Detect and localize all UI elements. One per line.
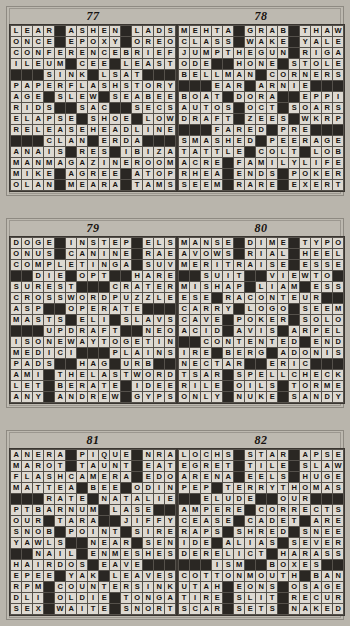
crossword-letter-cell: S xyxy=(322,282,332,292)
crossword-letter-cell: E xyxy=(44,169,54,179)
crossword-letter-cell: E xyxy=(154,92,164,102)
crossword-letter-cell: T xyxy=(267,593,277,603)
crossword-letter-cell: A xyxy=(77,571,87,581)
crossword-letter-cell: A xyxy=(22,81,32,91)
crossword-letter-cell: R xyxy=(322,180,332,190)
crossword-letter-cell: A xyxy=(179,326,189,336)
crossword-block-cell xyxy=(132,538,142,548)
crossword-block-cell xyxy=(55,37,65,47)
crossword-letter-cell: S xyxy=(165,180,175,190)
crossword-block-cell xyxy=(278,381,288,391)
crossword-letter-cell: O xyxy=(143,370,153,380)
crossword-letter-cell: X xyxy=(289,560,299,570)
crossword-letter-cell: L xyxy=(77,81,87,91)
crossword-block-cell xyxy=(55,249,65,259)
crossword-letter-cell: K xyxy=(33,169,43,179)
crossword-letter-cell: E xyxy=(201,472,211,482)
crossword-letter-cell: S xyxy=(77,560,87,570)
crossword-letter-cell: C xyxy=(245,516,255,526)
crossword-block-cell xyxy=(132,249,142,259)
crossword-letter-cell: E xyxy=(165,249,175,259)
crossword-letter-cell: F xyxy=(143,516,153,526)
crossword-letter-cell: Y xyxy=(143,392,153,402)
crossword-letter-cell: E xyxy=(132,304,142,314)
crossword-letter-cell: R xyxy=(66,48,76,58)
crossword-block-cell xyxy=(256,359,266,369)
crossword-letter-cell: A xyxy=(333,48,343,58)
crossword-letter-cell: S xyxy=(55,293,65,303)
crossword-letter-cell: P xyxy=(212,48,222,58)
crossword-letter-cell: O xyxy=(300,348,310,358)
crossword-letter-cell: E xyxy=(300,505,310,515)
crossword-letter-cell: E xyxy=(333,582,343,592)
crossword-letter-cell: Y xyxy=(11,538,21,548)
crossword-letter-cell: A xyxy=(11,392,21,402)
crossword-letter-cell: E xyxy=(66,114,76,124)
crossword-letter-cell: S xyxy=(99,147,109,157)
crossword-letter-cell: R xyxy=(99,304,109,314)
crossword-letter-cell: E xyxy=(33,92,43,102)
crossword-letter-cell: E xyxy=(99,392,109,402)
crossword-letter-cell: M xyxy=(267,238,277,248)
crossword-letter-cell: I xyxy=(212,260,222,270)
crossword-letter-cell: I xyxy=(77,604,87,614)
puzzle-band-2: 79 DOGEINSTEPELSONUSCANINERAECOMPLETINGA… xyxy=(6,218,344,408)
crossword-letter-cell: O xyxy=(132,37,142,47)
crossword-letter-cell: C xyxy=(11,293,21,303)
crossword-letter-cell: N xyxy=(289,604,299,614)
crossword-letter-cell: T xyxy=(99,238,109,248)
crossword-letter-cell: S xyxy=(333,282,343,292)
crossword-letter-cell: T xyxy=(165,59,175,69)
crossword-letter-cell: G xyxy=(154,593,164,603)
crossword-letter-cell: L xyxy=(88,370,98,380)
crossword-letter-cell: T xyxy=(99,381,109,391)
crossword-letter-cell: R xyxy=(44,450,54,460)
crossword-block-cell xyxy=(278,169,288,179)
crossword-letter-cell: L xyxy=(278,147,288,157)
crossword-letter-cell: T xyxy=(55,516,65,526)
crossword-letter-cell: E xyxy=(44,37,54,47)
crossword-letter-cell: U xyxy=(99,461,109,471)
crossword-letter-cell: W xyxy=(212,249,222,259)
crossword-letter-cell: R xyxy=(22,293,32,303)
crossword-block-cell xyxy=(99,516,109,526)
crossword-letter-cell: T xyxy=(121,593,131,603)
crossword-block-cell xyxy=(121,271,131,281)
crossword-block-cell xyxy=(289,92,299,102)
crossword-letter-cell: E xyxy=(234,136,244,146)
crossword-letter-cell: E xyxy=(333,158,343,168)
crossword-letter-cell: L xyxy=(267,461,277,471)
crossword-letter-cell: T xyxy=(66,282,76,292)
crossword-letter-cell: E xyxy=(322,249,332,259)
crossword-letter-cell: Z xyxy=(245,114,255,124)
crossword-letter-cell: N xyxy=(88,582,98,592)
crossword-letter-cell: E xyxy=(121,114,131,124)
crossword-block-cell xyxy=(143,560,153,570)
crossword-letter-cell: R xyxy=(212,304,222,314)
crossword-letter-cell: I xyxy=(190,282,200,292)
crossword-block-cell xyxy=(212,483,222,493)
crossword-letter-cell: N xyxy=(278,81,288,91)
crossword-letter-cell: E xyxy=(267,359,277,369)
crossword-letter-cell: I xyxy=(99,315,109,325)
crossword-letter-cell: E xyxy=(110,169,120,179)
crossword-letter-cell: A xyxy=(11,370,21,380)
crossword-letter-cell: E xyxy=(289,271,299,281)
crossword-letter-cell: S xyxy=(55,282,65,292)
crossword-letter-cell: C xyxy=(201,337,211,347)
crossword-letter-cell: N xyxy=(267,293,277,303)
crossword-letter-cell: I xyxy=(44,348,54,358)
crossword-letter-cell: E xyxy=(311,282,321,292)
crossword-letter-cell: I xyxy=(201,326,211,336)
crossword-letter-cell: F xyxy=(234,158,244,168)
crossword-letter-cell: A xyxy=(55,494,65,504)
crossword-letter-cell: E xyxy=(88,549,98,559)
crossword-letter-cell: S xyxy=(77,103,87,113)
crossword-letter-cell: S xyxy=(190,293,200,303)
crossword-letter-cell: I xyxy=(234,549,244,559)
crossword-letter-cell: Y xyxy=(223,304,233,314)
crossword-letter-cell: N xyxy=(143,450,153,460)
crossword-letter-cell: C xyxy=(99,48,109,58)
crossword-letter-cell: S xyxy=(223,450,233,460)
crossword-letter-cell: L xyxy=(223,147,233,157)
